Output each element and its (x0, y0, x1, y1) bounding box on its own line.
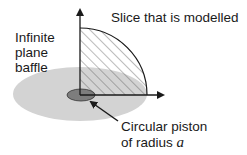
radius-symbol: a (177, 134, 185, 150)
baffle-label-line3: baffle (15, 60, 48, 75)
piston-label-line2: of radius a (121, 134, 184, 150)
slice-label: Slice that is modelled (111, 10, 239, 25)
modelled-slice (80, 28, 147, 95)
piston-label-prefix: of radius (121, 135, 177, 150)
piston-baffle-diagram: Slice that is modelled Infinite plane ba… (0, 0, 247, 155)
baffle-label-line1: Infinite (15, 30, 55, 45)
baffle-label-line2: plane (15, 45, 48, 60)
piston-label-line1: Circular piston (121, 119, 207, 134)
